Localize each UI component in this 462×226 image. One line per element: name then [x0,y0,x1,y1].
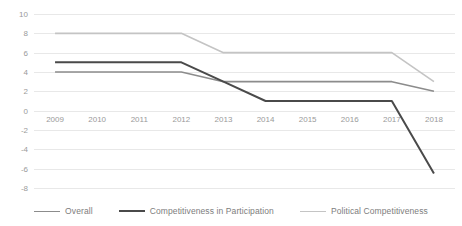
series-line [55,33,434,81]
x-axis-tick-label: 2013 [215,115,233,124]
chart-legend: OverallCompetitiveness in ParticipationP… [0,196,462,226]
y-axis-tick-label: 4 [24,68,29,77]
legend-label: Overall [65,206,93,216]
x-axis-tick-label: 2015 [299,115,317,124]
legend-item[interactable]: Overall [34,206,93,216]
legend-item[interactable]: Competitiveness in Participation [119,206,274,216]
y-axis-tick-label: 8 [24,29,29,38]
legend-line-icon [300,211,326,212]
legend-label: Competitiveness in Participation [150,206,274,216]
y-axis-tick-label: -6 [21,165,29,174]
line-chart: 1086420-2-4-6-82009201020112012201320142… [0,0,462,226]
series-line [55,72,434,91]
y-axis-tick-label: 0 [24,107,29,116]
x-axis-tick-label: 2011 [131,115,149,124]
y-axis-tick-label: 2 [24,87,29,96]
legend-line-icon [34,211,60,212]
y-axis-tick-label: 6 [24,49,29,58]
x-axis-tick-label: 2016 [341,115,359,124]
legend-label: Political Competitiveness [331,206,428,216]
x-axis-tick-label: 2017 [383,115,401,124]
x-axis-tick-label: 2014 [257,115,275,124]
x-axis-tick-label: 2012 [172,115,190,124]
x-axis-tick-label: 2009 [46,115,64,124]
x-axis-tick-label: 2018 [425,115,443,124]
y-axis-tick-label: 10 [19,10,28,19]
y-axis-tick-label: -2 [21,126,29,135]
y-axis-tick-label: -8 [21,184,29,193]
legend-line-icon [119,210,145,212]
series-line [55,62,434,173]
y-axis-tick-label: -4 [21,145,29,154]
plot-area: 1086420-2-4-6-82009201020112012201320142… [0,0,462,196]
chart-canvas: 1086420-2-4-6-82009201020112012201320142… [0,0,462,196]
legend-item[interactable]: Political Competitiveness [300,206,428,216]
x-axis-tick-label: 2010 [88,115,106,124]
